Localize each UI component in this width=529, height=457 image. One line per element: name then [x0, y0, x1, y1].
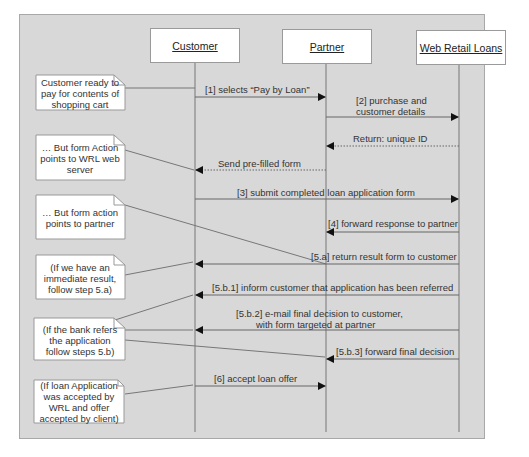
message-5b2-label-line1: [5.b.2] e-mail final decision to custome…: [236, 308, 403, 319]
note-form-action-partner: … But form action points to partner: [40, 198, 120, 238]
message-6-label: [6] accept loan offer: [214, 373, 297, 384]
note-bank-refers: (If the bank refers the application foll…: [38, 320, 122, 360]
message-5b1-label: [5.b.1] inform customer that application…: [212, 282, 453, 293]
actor-partner: Partner: [282, 29, 372, 64]
message-1-label: [1] selects “Pay by Loan”: [205, 84, 310, 95]
message-prefilled-label: Send pre-filled form: [218, 158, 301, 169]
message-5a-label: [5.a] return result form to customer: [311, 251, 457, 262]
note-loan-accepted: (If loan Application was accepted by WRL…: [35, 381, 123, 423]
message-return-id-label: Return: unique ID: [353, 133, 427, 144]
actor-customer: Customer: [150, 28, 240, 63]
message-2-label-line1: [2] purchase and: [356, 95, 427, 106]
note-immediate-result: (If we have an immediate result, follow …: [40, 258, 120, 298]
message-5b3-label: [5.b.3] forward final decision: [336, 346, 454, 357]
message-4-label: [4] forward response to partner: [328, 218, 458, 229]
message-3-label: [3] submit completed loan application fo…: [237, 187, 415, 198]
note-customer-ready: Customer ready to pay for contents of sh…: [38, 77, 122, 109]
message-5b2-label-line2: with form targeted at partner: [256, 319, 375, 330]
note-form-action-wrl: … But form Action points to WRL web serv…: [40, 138, 120, 178]
actor-web-retail-loans: Web Retail Loans: [416, 30, 506, 65]
message-2-label-line2: customer details: [356, 106, 425, 117]
